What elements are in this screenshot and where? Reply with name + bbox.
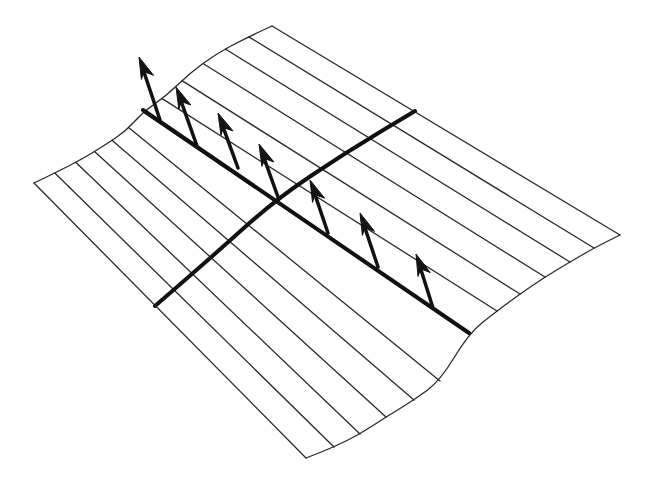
- ruling-line: [225, 49, 570, 262]
- ruling-line: [95, 152, 387, 418]
- front-edge: [306, 235, 620, 458]
- normal-vectors: [139, 57, 433, 308]
- emphasized-curves: [143, 110, 469, 333]
- ruling-line: [112, 140, 414, 400]
- ruling-line: [182, 81, 520, 294]
- ruled-surface-diagram: [0, 0, 649, 483]
- normal-vector-arrow-icon: [218, 113, 238, 168]
- ruling-line: [34, 183, 306, 458]
- ruling-line: [129, 128, 440, 381]
- ruling-line: [203, 64, 545, 278]
- surface-boundary: [34, 26, 620, 458]
- ruling-line: [272, 26, 620, 235]
- surface-rulings: [34, 26, 620, 458]
- highlighted-ruling: [143, 110, 469, 333]
